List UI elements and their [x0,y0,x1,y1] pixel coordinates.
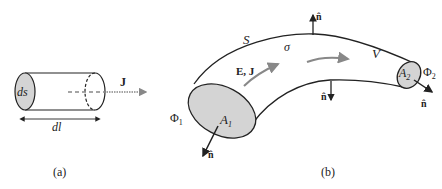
volume-label-v: V [372,46,382,61]
normal-label-top: n̂ [316,11,322,22]
normal-label-a1: n̂ [208,149,214,160]
figure-a-cylinder [15,73,146,119]
field-label-ej: E, J [236,65,255,77]
normal-label-bottom: n̂ [321,91,327,102]
diagram-canvas: ds J dl (a) S σ V E, J A1 A2 Φ1 Φ2 n̂ n̂… [0,0,442,189]
current-label-j: J [120,75,126,89]
length-label-dl: dl [52,120,62,134]
conductivity-label-sigma: σ [284,40,291,54]
surface-label-s: S [243,32,250,47]
potential2-label: Φ2 [423,65,436,81]
caption-b: (b) [321,165,335,179]
figure-b-tube [179,15,432,156]
face-label-ds: ds [17,85,28,99]
potential1-label: Φ1 [170,111,183,127]
normal-label-a2: n̂ [421,98,427,109]
caption-a: (a) [53,165,66,179]
